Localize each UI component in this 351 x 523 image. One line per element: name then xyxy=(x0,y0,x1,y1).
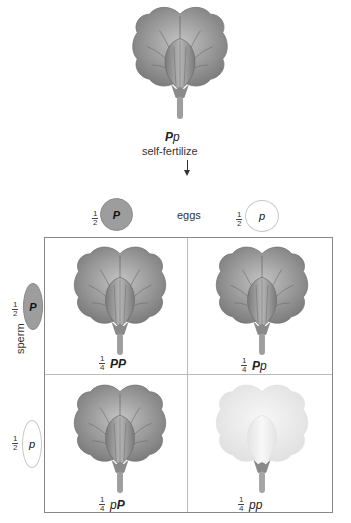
cell-3-genotype: pP xyxy=(110,498,125,512)
cell-3-fraction: 14 xyxy=(99,496,105,513)
egg-dominant-gamete: P xyxy=(100,198,133,231)
offspring-heterozygous-flower-icon xyxy=(210,240,314,358)
offspring-recessive-flower-icon xyxy=(210,378,314,496)
cell-4-fraction: 14 xyxy=(238,496,244,513)
grid-divider-horizontal xyxy=(45,374,332,375)
cell-4-genotype: pp xyxy=(249,498,262,512)
grid-divider-vertical xyxy=(187,238,188,512)
parent-genotype: Pp xyxy=(165,130,180,144)
sperm-dominant-fraction: 12 xyxy=(12,301,18,318)
sperm-dominant-gamete: P xyxy=(23,283,43,330)
offspring-pp-dominant-flower-icon xyxy=(68,240,172,358)
self-fertilize-label: self-fertilize xyxy=(142,145,198,157)
cell-2-genotype: Pp xyxy=(252,359,267,373)
egg-recessive-gamete: p xyxy=(245,200,279,232)
eggs-label: eggs xyxy=(177,209,201,221)
sperm-recessive-fraction: 12 xyxy=(12,435,18,452)
cell-1-genotype: PP xyxy=(110,357,126,371)
cell-1-fraction: 14 xyxy=(99,355,105,372)
arrow-head-icon xyxy=(184,170,190,176)
egg-dominant-fraction: 12 xyxy=(92,210,98,227)
sperm-label: sperm xyxy=(14,323,26,354)
parent-flower-icon xyxy=(128,0,232,122)
egg-recessive-fraction: 12 xyxy=(236,211,242,228)
cell-2-fraction: 14 xyxy=(241,357,247,374)
offspring-heterozygous-flower-icon xyxy=(68,378,172,496)
sperm-recessive-gamete: p xyxy=(22,420,42,468)
